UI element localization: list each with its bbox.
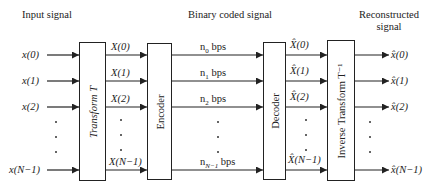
- input-x1: x(1): [22, 76, 39, 87]
- input-x0: x(0): [22, 50, 39, 61]
- input-x2: x(2): [22, 102, 39, 113]
- output-xN-1: x̂(N−1): [391, 165, 422, 176]
- inverse-transform-label: Inverse Transform T⁻¹: [335, 63, 347, 158]
- binary-coded-signal-header: Binary coded signal: [170, 9, 290, 21]
- decoder-block: Decoder: [263, 42, 286, 180]
- output-x0: x̂(0): [391, 50, 408, 61]
- input-xN-1: x(N−1): [9, 165, 40, 176]
- decoded-X2: X̂(2): [290, 92, 309, 103]
- decoded-XN-1: X̂(N−1): [288, 155, 321, 166]
- transform-block: Transform T: [79, 42, 106, 181]
- bitrate-n1: n1 bps: [200, 68, 226, 81]
- coef-X1: X(1): [111, 68, 130, 79]
- encoder-block: Encoder: [147, 43, 172, 180]
- coef-X0: X(0): [111, 42, 130, 53]
- bitrate-n2: n2 bps: [200, 94, 226, 107]
- bitrate-n0: n0 bps: [200, 42, 226, 55]
- encoder-label: Encoder: [154, 94, 165, 129]
- reconstructed-header-line2: signal: [345, 21, 433, 33]
- decoded-X0: X̂(0): [290, 40, 309, 51]
- transform-label: Transform T: [87, 85, 98, 137]
- output-x1: x̂(1): [391, 76, 408, 87]
- inverse-transform-block: Inverse Transform T⁻¹: [327, 40, 355, 181]
- bitrate-nN-1: nN−1 bps: [200, 157, 235, 170]
- coef-X2: X(2): [111, 94, 130, 105]
- output-x2: x̂(2): [391, 102, 408, 113]
- reconstructed-signal-header: Reconstructed signal: [345, 9, 433, 33]
- input-signal-header: Input signal: [22, 9, 72, 21]
- reconstructed-header-line1: Reconstructed: [345, 9, 433, 21]
- coef-XN-1: X(N−1): [109, 157, 142, 168]
- decoder-label: Decoder: [269, 93, 280, 129]
- decoded-X1: X̂(1): [290, 66, 309, 77]
